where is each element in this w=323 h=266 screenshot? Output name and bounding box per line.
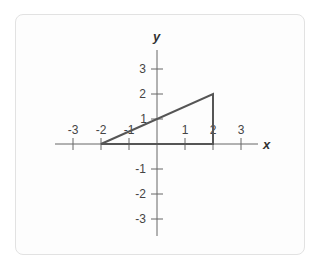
x-tick-label: -2	[96, 123, 107, 137]
x-tick-label: 1	[182, 123, 189, 137]
y-tick-label: 2	[139, 87, 146, 101]
x-tick-label: -3	[68, 123, 79, 137]
x-axis-label: x	[262, 137, 271, 152]
y-tick-label: -1	[135, 162, 146, 176]
y-tick-label: -3	[135, 212, 146, 226]
y-axis-label: y	[152, 29, 161, 44]
y-tick-label: 3	[139, 62, 146, 76]
coordinate-plane: -3-2-1123321-1-2-3 x y	[0, 0, 323, 266]
x-tick-label: 3	[238, 123, 245, 137]
y-tick-label: -2	[135, 187, 146, 201]
